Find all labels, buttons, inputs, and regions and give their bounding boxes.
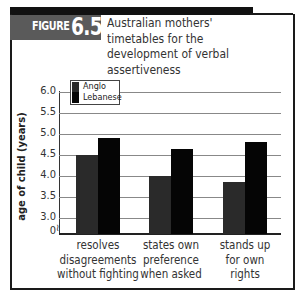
y-tick-label: 4.5: [32, 147, 56, 160]
x-category-label-line: rights: [200, 267, 290, 282]
legend: Anglo Lebanese: [70, 80, 120, 105]
bar-chart: age of child (years) ≀ 6.05.55.04.54.03.…: [0, 0, 304, 299]
y-tick-label: 4.0: [32, 168, 56, 181]
legend-swatch-anglo: [72, 82, 79, 92]
x-category-label-line: stands up: [200, 238, 290, 253]
y-tick-label-zero: 0: [32, 224, 56, 237]
bar-anglo: [76, 155, 98, 234]
bar-lebanese: [245, 142, 267, 234]
legend-label-anglo: Anglo: [83, 81, 106, 91]
x-category-label-line: for own: [200, 253, 290, 268]
y-tick-label: 3.0: [32, 210, 56, 223]
bar-lebanese: [98, 138, 120, 234]
y-axis-label: age of child (years): [15, 102, 28, 232]
y-tick-label: 3.5: [32, 189, 56, 202]
y-tick-label: 6.0: [32, 84, 56, 97]
gridline: [59, 134, 281, 135]
y-tick-label: 5.5: [32, 105, 56, 118]
bar-lebanese: [171, 149, 193, 234]
legend-label-lebanese: Lebanese: [83, 92, 122, 102]
x-category-label: stands upfor ownrights: [200, 238, 290, 282]
axis-break-icon: ≀: [56, 222, 59, 233]
gridline: [59, 113, 281, 114]
legend-swatch-lebanese: [72, 92, 79, 103]
y-tick-label: 5.0: [32, 126, 56, 139]
bar-anglo: [223, 182, 245, 234]
bar-anglo: [149, 176, 171, 234]
